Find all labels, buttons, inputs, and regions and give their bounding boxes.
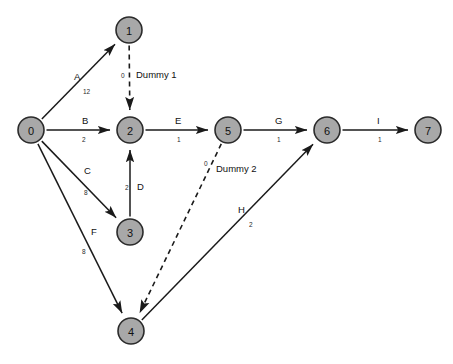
node-label-3: 3 <box>127 227 133 239</box>
node-label-1: 1 <box>126 25 132 37</box>
edge-name-f: F <box>91 226 97 237</box>
edge-weight-dummy-1: 0 <box>121 72 125 79</box>
edge-name-d: D <box>137 181 144 192</box>
edge-name-dummy-2: Dummy 2 <box>216 163 257 174</box>
edge-weight-g: 1 <box>277 136 281 143</box>
edge-name-g: G <box>275 115 282 126</box>
edge-weight-a: 12 <box>83 88 91 95</box>
node-2[interactable]: 2 <box>117 117 143 143</box>
node-label-4: 4 <box>128 326 134 338</box>
edge-name-a: A <box>74 71 81 82</box>
edge-f <box>38 144 122 313</box>
edge-name-dummy-1: Dummy 1 <box>136 69 177 80</box>
node-label-2: 2 <box>127 125 133 137</box>
edge-c <box>42 141 116 218</box>
edge-weight-d: 2 <box>125 184 129 191</box>
edges-layer <box>38 44 408 320</box>
nodes-layer: 01234567 <box>18 17 441 344</box>
node-label-0: 0 <box>28 125 34 137</box>
node-label-5: 5 <box>225 125 231 137</box>
node-6[interactable]: 6 <box>314 117 340 143</box>
edge-weight-f: 8 <box>82 248 86 255</box>
edge-weight-c: 8 <box>84 189 88 196</box>
node-3[interactable]: 3 <box>117 219 143 245</box>
network-diagram: 01234567 A12B2C8D2E1F8G1H2I1Dummy 10Dumm… <box>0 0 453 364</box>
network-diagram-canvas: 01234567 A12B2C8D2E1F8G1H2I1Dummy 10Dumm… <box>0 0 453 364</box>
node-label-6: 6 <box>324 125 330 137</box>
node-label-7: 7 <box>425 125 431 137</box>
edge-weight-i: 1 <box>378 136 382 143</box>
node-1[interactable]: 1 <box>116 17 142 43</box>
edge-name-b: B <box>82 115 88 126</box>
node-7[interactable]: 7 <box>415 117 441 143</box>
edge-name-i: I <box>377 115 380 126</box>
edge-dummy-1 <box>129 45 130 110</box>
node-4[interactable]: 4 <box>118 318 144 344</box>
edge-name-c: C <box>84 165 91 176</box>
node-0[interactable]: 0 <box>18 117 44 143</box>
edge-name-h: H <box>238 204 245 215</box>
edge-weight-h: 2 <box>249 221 253 228</box>
edge-weight-b: 2 <box>82 136 86 143</box>
node-5[interactable]: 5 <box>215 117 241 143</box>
edge-weight-dummy-2: 0 <box>204 160 208 167</box>
edge-dummy-2 <box>140 144 222 313</box>
edge-weight-e: 1 <box>177 136 181 143</box>
edge-name-e: E <box>175 115 181 126</box>
